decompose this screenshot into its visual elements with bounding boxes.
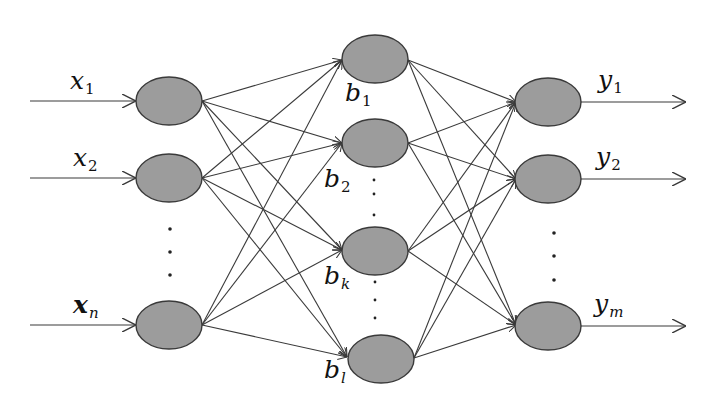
input-hidden-edges bbox=[202, 60, 347, 357]
output-labels: y1 y2 ym bbox=[593, 65, 623, 321]
label-y1: y1 bbox=[597, 65, 623, 97]
node-y1 bbox=[515, 78, 581, 126]
input-ellipsis bbox=[168, 227, 172, 277]
node-xn bbox=[136, 301, 202, 349]
node-bk bbox=[342, 227, 408, 275]
label-y2: y2 bbox=[595, 142, 621, 174]
node-x2 bbox=[136, 154, 202, 202]
label-x1: x1 bbox=[70, 66, 95, 98]
label-ym: ym bbox=[593, 289, 623, 321]
node-x1 bbox=[136, 77, 202, 125]
label-x2: x2 bbox=[73, 143, 98, 175]
label-xn: xn bbox=[72, 290, 99, 322]
label-b2: b2 bbox=[324, 164, 351, 196]
output-ellipsis bbox=[552, 231, 556, 282]
label-bl: bl bbox=[324, 355, 346, 387]
node-b2 bbox=[342, 119, 408, 167]
output-layer bbox=[515, 78, 581, 350]
input-layer bbox=[136, 77, 202, 349]
node-bl bbox=[348, 335, 414, 383]
hidden-output-edges bbox=[408, 60, 516, 358]
node-ym bbox=[515, 302, 581, 350]
input-labels: x1 x2 xn bbox=[70, 66, 99, 322]
node-y2 bbox=[515, 155, 581, 203]
node-b1 bbox=[342, 35, 408, 83]
neural-network-diagram: x1 x2 xn b1 b2 bk bl y1 y2 ym bbox=[0, 0, 712, 406]
label-bk: bk bbox=[324, 261, 350, 293]
